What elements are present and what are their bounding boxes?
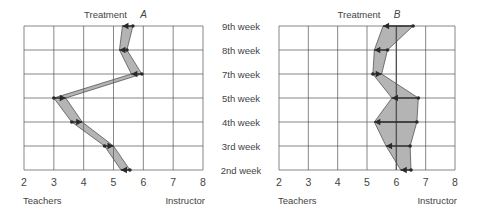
chart-panel-a: 2345678TreatmentATeachersInstructor: [21, 9, 206, 206]
data-point-dot: [411, 24, 415, 28]
x-tick-label: 4: [335, 176, 341, 188]
week-row-label: 8th week: [222, 45, 260, 56]
data-point-dot: [386, 48, 390, 52]
x-tick-label: 3: [51, 176, 57, 188]
data-point-dot: [417, 96, 421, 100]
x-tick-label: 2: [276, 176, 282, 188]
x-axis-label-right: Instructor: [417, 195, 457, 206]
data-point-dot: [125, 48, 129, 52]
x-tick-label: 5: [364, 176, 370, 188]
data-point-dot: [140, 72, 144, 76]
x-tick-label: 7: [170, 176, 176, 188]
chart-title: Treatment: [84, 9, 127, 20]
chart-title-letter: B: [394, 9, 401, 20]
week-row-label: 3rd week: [222, 141, 261, 152]
chart-title: Treatment: [338, 9, 381, 20]
x-axis-label-left: Teachers: [23, 195, 62, 206]
chart-panel-b: 2345678TreatmentBTeachersInstructor: [276, 9, 458, 206]
x-axis-label-right: Instructor: [165, 195, 205, 206]
chart-title-letter: A: [139, 9, 147, 20]
x-tick-label: 6: [393, 176, 399, 188]
week-row-label: 9th week: [222, 21, 260, 32]
x-tick-label: 8: [452, 176, 458, 188]
data-point-dot: [408, 144, 412, 148]
data-point-dot: [131, 24, 135, 28]
x-tick-label: 7: [423, 176, 429, 188]
data-point-dot: [371, 72, 375, 76]
week-row-label: 4th week: [222, 117, 260, 128]
x-tick-label: 5: [111, 176, 117, 188]
x-tick-label: 3: [305, 176, 311, 188]
data-point-dot: [52, 96, 56, 100]
chart-canvas: 2345678TreatmentATeachersInstructor23456…: [0, 0, 483, 209]
x-tick-label: 6: [140, 176, 146, 188]
x-tick-label: 2: [21, 176, 27, 188]
data-point-dot: [70, 120, 74, 124]
data-point-dot: [415, 120, 419, 124]
data-point-dot: [103, 144, 107, 148]
x-tick-label: 4: [81, 176, 87, 188]
week-row-label: 7th week: [222, 69, 260, 80]
data-point-dot: [128, 168, 132, 172]
x-axis-label-left: Teachers: [278, 195, 317, 206]
week-row-label: 2nd week: [221, 165, 262, 176]
week-row-label: 5th week: [222, 93, 260, 104]
x-tick-label: 8: [200, 176, 206, 188]
data-point-dot: [409, 168, 413, 172]
